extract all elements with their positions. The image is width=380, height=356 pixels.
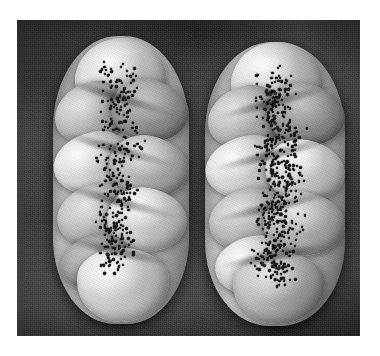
figure-root: Two braided bread rolls topped with popp… [0,0,380,356]
roll-right [205,42,345,326]
roll-left [53,36,189,324]
photograph-plate [17,20,360,336]
